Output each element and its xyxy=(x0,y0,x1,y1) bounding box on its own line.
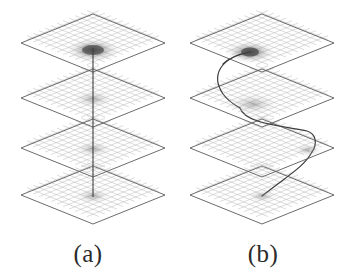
grid-plane-1 xyxy=(190,11,334,72)
caption-b: (b) xyxy=(175,232,351,276)
panel-a-diagram xyxy=(0,0,176,232)
caption-a: (a) xyxy=(0,232,176,276)
panel-b-diagram xyxy=(175,0,351,232)
panel-a xyxy=(0,0,176,232)
figure-container: (a) (b) xyxy=(0,0,351,276)
intensity-blob-plane-4 xyxy=(247,189,277,203)
intensity-blob-plane-2 xyxy=(227,93,279,115)
panel-b xyxy=(175,0,351,232)
intensity-blob-plane-3 xyxy=(293,143,323,157)
